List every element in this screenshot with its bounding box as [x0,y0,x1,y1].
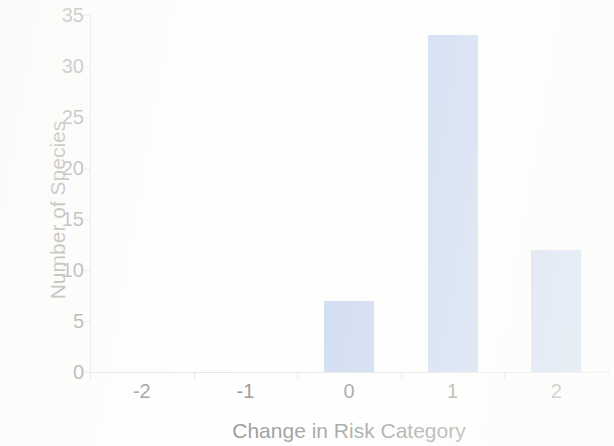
bar [324,301,374,372]
x-axis-tick-labels: -2-1012 [90,381,608,409]
bars-layer [90,15,608,372]
x-tick-mark [194,372,195,379]
x-tick-mark [504,372,505,379]
x-tick-mark [401,372,402,379]
x-tick-label: -1 [205,381,285,401]
x-axis-title: Change in Risk Category [90,419,608,443]
y-tick-mark [84,66,91,67]
y-tick-mark [84,321,91,322]
y-tick-mark [84,219,91,220]
x-tick-label: 2 [516,381,596,401]
x-tick-label: 1 [413,381,493,401]
y-tick-mark [84,168,91,169]
y-axis-line [90,15,91,373]
y-axis-tick-labels: 05101520253035 [38,0,84,446]
bar [531,250,581,372]
y-tick-label: 5 [40,311,84,331]
y-tick-label: 35 [40,5,84,25]
y-tick-label: 25 [40,107,84,127]
y-tick-label: 10 [40,260,84,280]
x-tick-mark [297,372,298,379]
x-axis-line [90,372,609,373]
x-tick-label: 0 [309,381,389,401]
bar-chart: Number of Species 05101520253035 -2-1012… [0,0,614,446]
y-tick-mark [84,117,91,118]
x-tick-mark [90,372,91,379]
x-tick-label: -2 [102,381,182,401]
y-tick-label: 20 [40,158,84,178]
y-tick-label: 15 [40,209,84,229]
y-tick-label: 0 [40,362,84,382]
x-tick-mark [608,372,609,379]
bar [428,35,478,372]
y-tick-mark [84,270,91,271]
y-tick-label: 30 [40,56,84,76]
y-tick-mark [84,15,91,16]
